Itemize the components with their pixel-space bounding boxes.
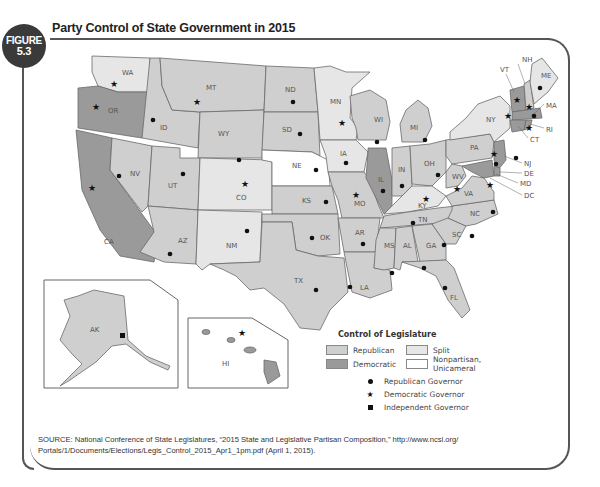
- svg-text:AK: AK: [90, 326, 100, 334]
- star-icon: ★: [364, 390, 376, 399]
- svg-text:OR: OR: [108, 107, 119, 115]
- svg-text:PA: PA: [470, 144, 479, 152]
- state-ia: IA: [320, 140, 368, 172]
- svg-text:IA: IA: [340, 150, 347, 158]
- svg-text:ID: ID: [160, 124, 167, 132]
- svg-text:LA: LA: [360, 284, 369, 292]
- svg-text:OH: OH: [424, 160, 435, 168]
- svg-text:FL: FL: [450, 294, 458, 302]
- svg-text:AR: AR: [355, 229, 365, 237]
- svg-text:MS: MS: [384, 242, 395, 250]
- circle-icon: [368, 379, 373, 384]
- svg-text:MT: MT: [206, 84, 217, 92]
- svg-text:VA: VA: [464, 190, 473, 198]
- svg-text:SC: SC: [452, 231, 461, 239]
- state-mi: MI: [400, 100, 432, 142]
- svg-text:★: ★: [110, 79, 118, 89]
- legend-label-democratic: Democratic: [353, 360, 396, 369]
- svg-text:★: ★: [92, 102, 100, 112]
- svg-text:CO: CO: [236, 194, 247, 202]
- state-me: ME: [530, 58, 558, 104]
- state-or: OR: [78, 86, 150, 138]
- svg-text:AL: AL: [403, 242, 412, 250]
- state-fl: FL: [402, 260, 470, 318]
- svg-text:NE: NE: [292, 162, 302, 170]
- square-icon: [368, 405, 373, 410]
- svg-text:CT: CT: [530, 136, 540, 144]
- svg-text:WA: WA: [122, 69, 134, 77]
- svg-text:★: ★: [525, 123, 533, 133]
- source-note: SOURCE: National Conference of State Leg…: [38, 435, 558, 456]
- svg-text:TX: TX: [293, 277, 303, 285]
- svg-text:WV: WV: [452, 173, 464, 181]
- svg-text:MN: MN: [330, 98, 341, 106]
- svg-text:OK: OK: [320, 234, 331, 242]
- svg-text:★: ★: [525, 102, 533, 112]
- svg-text:NH: NH: [522, 56, 533, 64]
- state-nd: ND: [264, 66, 318, 112]
- svg-text:DE: DE: [524, 170, 534, 178]
- split-swatch: [406, 345, 428, 355]
- svg-text:MI: MI: [410, 124, 418, 132]
- svg-text:NJ: NJ: [524, 160, 531, 168]
- legend-row-2: Democratic Nonpartisan, Unicameral: [326, 357, 526, 371]
- svg-text:IL: IL: [378, 176, 384, 184]
- svg-text:★: ★: [486, 180, 494, 190]
- svg-text:WY: WY: [218, 130, 230, 138]
- svg-text:NY: NY: [486, 116, 496, 124]
- svg-text:★: ★: [352, 190, 360, 200]
- state-nm: NM: [196, 210, 262, 270]
- svg-text:TN: TN: [417, 216, 428, 224]
- svg-text:★: ★: [422, 194, 430, 204]
- state-ny: NY: [450, 96, 510, 142]
- legend-republican-governor: Republican Governor: [364, 375, 526, 388]
- svg-text:MO: MO: [354, 200, 366, 208]
- svg-text:KS: KS: [302, 197, 312, 205]
- svg-text:★: ★: [513, 95, 521, 105]
- svg-text:MA: MA: [546, 102, 557, 110]
- figure-title: Party Control of State Government in 201…: [52, 21, 295, 35]
- svg-text:RI: RI: [546, 126, 553, 134]
- state-sd: SD: [262, 112, 320, 156]
- svg-text:★: ★: [241, 179, 249, 189]
- state-ks: KS: [272, 186, 338, 214]
- svg-text:MD: MD: [520, 180, 531, 188]
- svg-text:IN: IN: [398, 166, 405, 174]
- svg-text:★: ★: [453, 184, 461, 194]
- svg-text:NM: NM: [226, 242, 237, 250]
- svg-text:★: ★: [88, 183, 96, 193]
- svg-text:★: ★: [504, 111, 512, 121]
- legend-independent-governor: Independent Governor: [364, 401, 526, 414]
- svg-text:★: ★: [490, 149, 498, 159]
- svg-text:DC: DC: [524, 192, 534, 200]
- svg-text:CA: CA: [104, 238, 114, 246]
- svg-text:SD: SD: [282, 126, 292, 134]
- svg-text:VT: VT: [500, 66, 510, 74]
- legend-title: Control of Legislature: [338, 330, 526, 339]
- svg-text:ND: ND: [285, 86, 296, 94]
- svg-text:ME: ME: [541, 72, 551, 80]
- svg-text:NV: NV: [130, 170, 140, 178]
- state-oh: OH: [410, 140, 446, 186]
- state-md: [462, 160, 494, 178]
- svg-text:GA: GA: [426, 242, 436, 250]
- nonpartisan-swatch: [406, 359, 428, 369]
- svg-text:AZ: AZ: [178, 237, 188, 245]
- svg-text:★: ★: [238, 328, 246, 338]
- svg-text:UT: UT: [168, 182, 178, 190]
- svg-text:NC: NC: [470, 210, 480, 218]
- svg-text:★: ★: [338, 118, 346, 128]
- republican-swatch: [326, 345, 348, 355]
- state-mt: MT: [160, 58, 266, 112]
- svg-text:★: ★: [193, 97, 201, 107]
- legend-label-nonpartisan: Nonpartisan, Unicameral: [433, 355, 526, 373]
- figure-badge: FIGURE 5.3: [2, 24, 46, 68]
- legend: Control of Legislature Republican Split …: [326, 330, 526, 414]
- democratic-swatch: [326, 359, 348, 369]
- legend-label-republican: Republican: [353, 346, 394, 355]
- svg-text:HI: HI: [222, 360, 229, 368]
- state-ut: UT: [148, 146, 200, 210]
- figure-badge-number: 5.3: [2, 46, 46, 57]
- state-wy: WY: [198, 110, 264, 158]
- alaska-inset: AK: [44, 280, 178, 388]
